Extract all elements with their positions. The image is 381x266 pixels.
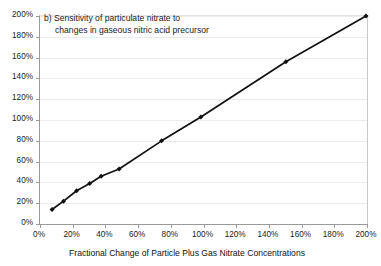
series-line	[52, 16, 366, 209]
